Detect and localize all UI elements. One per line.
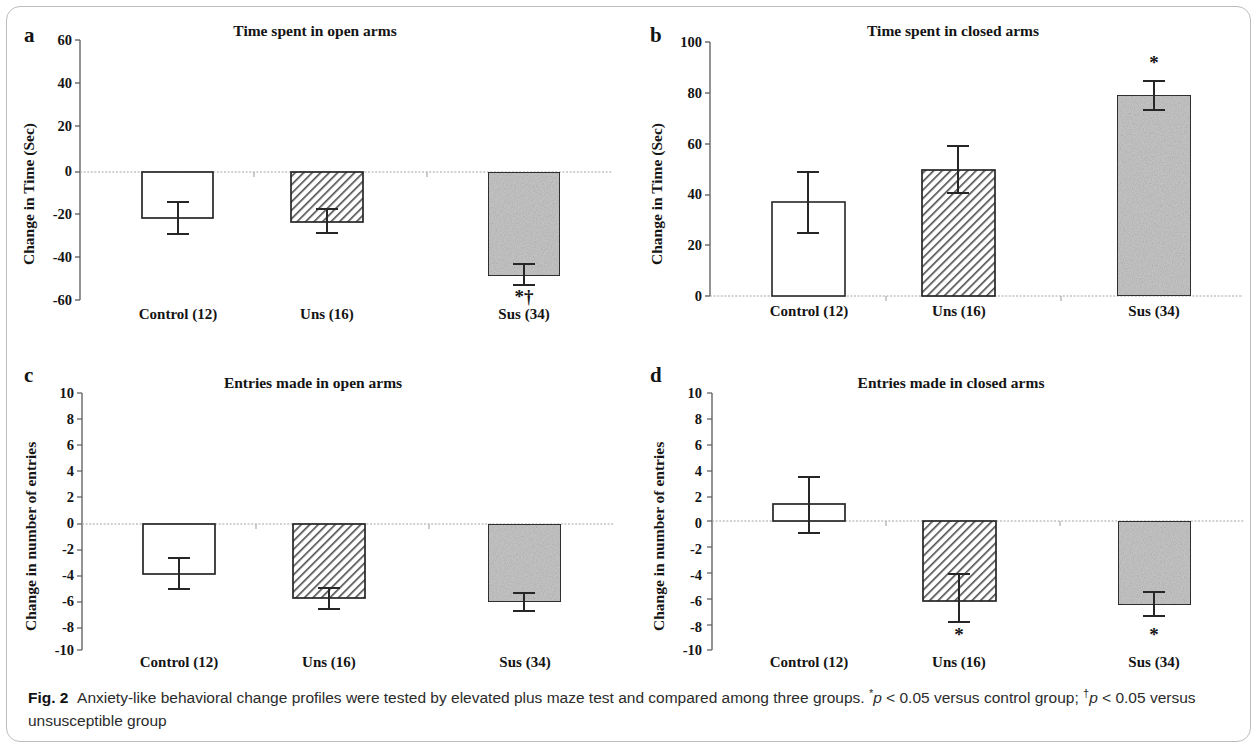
panel-d-xlabel-control: Control (12)	[741, 654, 877, 671]
panel-b-xlabel-control: Control (12)	[741, 303, 877, 320]
panel-b-xlabel-sus: Sus (34)	[1089, 303, 1219, 320]
panel-b-xlabel-uns: Uns (16)	[894, 303, 1024, 320]
panel-b: b Time spent in closed arms Change in Ti…	[628, 0, 1257, 341]
caption-p-1: p	[873, 689, 882, 706]
panel-c-xlabel-uns: Uns (16)	[264, 654, 394, 671]
panel-a-bar-sus	[488, 172, 560, 276]
panel-d-sig-uns: *	[929, 624, 989, 646]
panel-a-xlabel-uns: Uns (16)	[262, 306, 392, 323]
panel-b-sig-sus: *	[1124, 52, 1184, 74]
caption-text-2: < 0.05 versus control group;	[882, 689, 1083, 706]
panel-c: c Entries made in open arms Change in nu…	[0, 341, 628, 682]
figure-caption: Fig. 2 Anxiety-like behavioral change pr…	[28, 686, 1228, 732]
panel-a-xlabel-sus: Sus (34)	[459, 306, 589, 323]
panel-a: a Time spent in open arms Change in Time…	[0, 0, 628, 341]
figure-root: a Time spent in open arms Change in Time…	[0, 0, 1257, 750]
panel-d: d Entries made in closed arms Change in …	[628, 341, 1257, 682]
caption-text-1: Anxiety-like behavioral change profiles …	[77, 689, 869, 706]
panel-c-xlabel-sus: Sus (34)	[460, 654, 590, 671]
figure-number: Fig. 2	[28, 689, 77, 706]
panel-c-bar-uns	[293, 524, 365, 598]
panel-c-xlabel-control: Control (12)	[111, 654, 247, 671]
panel-c-plot	[0, 341, 628, 682]
panels-area: a Time spent in open arms Change in Time…	[0, 0, 1257, 682]
panel-a-xlabel-control: Control (12)	[110, 306, 246, 323]
panel-a-sig-sus: *†	[494, 286, 554, 308]
panel-b-bar-sus	[1117, 95, 1191, 296]
caption-p-2: p	[1089, 689, 1098, 706]
panel-d-xlabel-uns: Uns (16)	[894, 654, 1024, 671]
panel-d-sig-sus: *	[1124, 624, 1184, 646]
panel-c-bar-sus	[488, 524, 561, 602]
panel-d-xlabel-sus: Sus (34)	[1089, 654, 1219, 671]
